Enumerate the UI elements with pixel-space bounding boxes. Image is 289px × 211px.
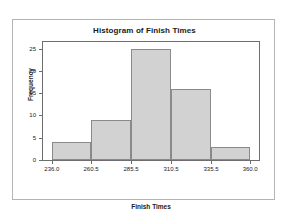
x-axis-tick-label: 285.5 xyxy=(123,166,138,172)
histogram-bar xyxy=(211,147,250,160)
histogram-screenshot: Histogram of Finish Times Frequency 236.… xyxy=(0,0,289,211)
x-axis-tick xyxy=(91,160,92,164)
y-axis-tick-label: 10 xyxy=(29,112,36,118)
y-axis-tick xyxy=(39,49,43,50)
x-axis-tick xyxy=(171,160,172,164)
figure-frame: Histogram of Finish Times Frequency 236.… xyxy=(12,19,275,200)
y-axis-tick xyxy=(39,93,43,94)
histogram-bar xyxy=(171,89,211,160)
y-axis-tick xyxy=(39,160,43,161)
x-axis-tick xyxy=(52,160,53,164)
histogram-bar xyxy=(91,120,131,160)
plot-inner: 236.0260.5285.5310.5335.5360.00510152025 xyxy=(43,42,259,160)
x-axis-title: Finish Times xyxy=(42,203,260,210)
plot-area: 236.0260.5285.5310.5335.5360.00510152025 xyxy=(42,41,260,161)
page-title: Histogram of Finish Times xyxy=(13,26,276,35)
y-axis-tick xyxy=(39,138,43,139)
x-axis-tick xyxy=(211,160,212,164)
y-axis-tick-label: 5 xyxy=(33,135,36,141)
y-axis-tick xyxy=(39,71,43,72)
x-axis-tick-label: 236.0 xyxy=(44,166,59,172)
x-axis-tick xyxy=(131,160,132,164)
x-axis-tick xyxy=(250,160,251,164)
y-axis-tick-label: 20 xyxy=(29,68,36,74)
x-axis-tick-label: 310.5 xyxy=(163,166,178,172)
y-axis-tick-label: 25 xyxy=(29,46,36,52)
x-axis-tick-label: 260.5 xyxy=(83,166,98,172)
histogram-bar xyxy=(131,49,171,160)
x-axis-tick-label: 360.0 xyxy=(243,166,258,172)
x-axis-tick-label: 335.5 xyxy=(203,166,218,172)
y-axis-tick xyxy=(39,115,43,116)
histogram-bar xyxy=(52,142,91,160)
y-axis-tick-label: 15 xyxy=(29,90,36,96)
y-axis-tick-label: 0 xyxy=(33,157,36,163)
